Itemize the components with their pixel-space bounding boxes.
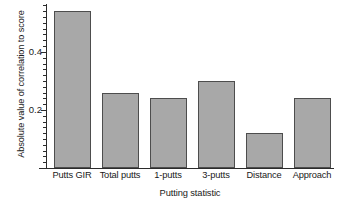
y-minor-tick xyxy=(43,168,46,169)
x-tick-label-approach: Approach xyxy=(288,170,336,180)
bar-chart-figure: Absolute value of correlation to score 0… xyxy=(0,0,339,219)
bar-total-putts xyxy=(102,93,139,168)
x-tick-label-putts-gir: Putts GIR xyxy=(48,170,96,180)
y-tick-label: 0.4 xyxy=(22,47,42,57)
x-axis-tick-labels: Putts GIRTotal putts1-putts3-puttsDistan… xyxy=(46,170,334,184)
plot-area xyxy=(46,4,334,168)
x-tick-label-total-putts: Total putts xyxy=(96,170,144,180)
bars-layer xyxy=(46,4,334,168)
bar-distance xyxy=(246,133,283,168)
bar-1-putts xyxy=(150,98,187,168)
bar-approach xyxy=(294,98,331,168)
x-tick-label-3-putts: 3-putts xyxy=(192,170,240,180)
x-axis-title: Putting statistic xyxy=(46,188,334,198)
y-tick-label: 0.2 xyxy=(22,105,42,115)
bar-3-putts xyxy=(198,81,235,168)
x-tick-label-distance: Distance xyxy=(240,170,288,180)
bar-putts-gir xyxy=(54,11,91,168)
y-axis-tick-labels: 0.20.4 xyxy=(20,0,42,219)
x-tick-label-1-putts: 1-putts xyxy=(144,170,192,180)
x-axis-spine xyxy=(39,168,334,169)
